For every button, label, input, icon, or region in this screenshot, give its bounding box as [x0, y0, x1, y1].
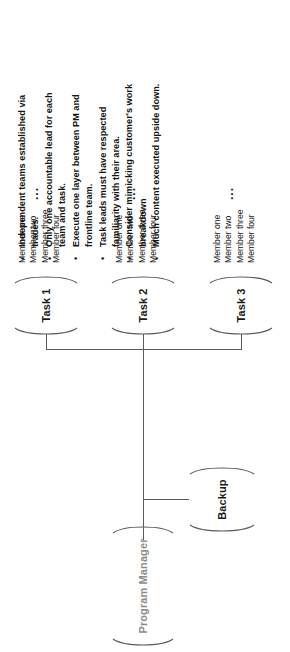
list-item: Member three: [235, 210, 246, 264]
bullet-icon: •: [151, 257, 164, 260]
bracket-left-icon: [112, 638, 174, 649]
diagram-canvas: Program Manager Backup: [0, 0, 290, 652]
node-program-manager[interactable]: Program Manager: [112, 538, 174, 634]
node-label: Task 3: [235, 284, 247, 326]
node-task-2[interactable]: Task 2: [111, 277, 175, 334]
note-text: Consider mimicking customer's work break…: [124, 84, 147, 247]
list-item: Member four: [246, 210, 257, 264]
node-backup[interactable]: Backup: [189, 471, 255, 528]
bracket-right-icon: [111, 273, 175, 284]
note-text: Task leads must have respected familiari…: [98, 107, 121, 247]
bracket-left-icon: [14, 327, 78, 338]
bullet-icon: •: [97, 257, 110, 260]
node-label: Backup: [216, 475, 228, 523]
bracket-right-icon: [189, 464, 255, 475]
bracket-right-icon: [112, 523, 174, 534]
note-text: Much content executed upside down.: [151, 84, 161, 247]
connector-root-trunk: [143, 350, 144, 540]
node-label: Task 2: [137, 284, 149, 326]
bracket-left-icon: [111, 327, 175, 338]
note-text: Independent teams established via trades…: [17, 95, 40, 247]
node-task-1[interactable]: Task 1: [14, 277, 78, 334]
list-item: • Execute one layer between PM and front…: [70, 75, 97, 260]
list-item: • Much content executed upside down.: [150, 75, 163, 260]
note-text: Only one accountable lead for each team …: [44, 92, 67, 247]
notes-panel: • Independent teams established via trad…: [16, 10, 164, 260]
bullet-icon: •: [124, 257, 137, 260]
bracket-right-icon: [209, 273, 273, 284]
list-item: • Independent teams established via trad…: [16, 75, 43, 260]
list-item: Member one: [212, 210, 223, 264]
bullet-icon: •: [44, 257, 57, 260]
bracket-right-icon: [14, 273, 78, 284]
bullet-icon: •: [70, 257, 83, 260]
notes-list: • Independent teams established via trad…: [16, 10, 164, 260]
note-text: Execute one layer between PM and frontli…: [71, 94, 94, 247]
bullet-icon: •: [17, 257, 30, 260]
list-item: • Only one accountable lead for each tea…: [43, 75, 70, 260]
list-item: Member two: [223, 210, 234, 264]
node-task-3[interactable]: Task 3: [209, 277, 273, 334]
member-list-task-3: Member one Member two Member three Membe…: [212, 210, 258, 264]
bracket-left-icon: [209, 327, 273, 338]
bracket-left-icon: [189, 524, 255, 535]
list-item: • Task leads must have respected familia…: [97, 75, 124, 260]
diagram-stage: Program Manager Backup: [0, 0, 290, 652]
more-indicator-task-3: ...: [223, 187, 235, 200]
node-label: Task 1: [40, 284, 52, 326]
list-item: • Consider mimicking customer's work bre…: [123, 75, 150, 260]
node-label: Program Manager: [137, 534, 149, 637]
connector-backup: [143, 499, 189, 500]
